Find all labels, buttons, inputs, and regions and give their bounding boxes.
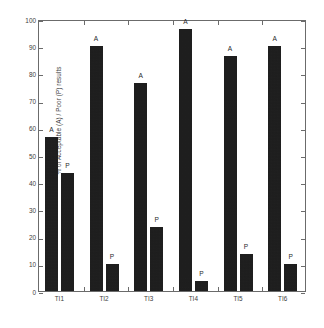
x-tick-mark <box>128 287 129 291</box>
y-tick-mark-right <box>301 184 305 185</box>
x-tick-label: TI5 <box>233 295 242 302</box>
x-tick-mark <box>173 287 174 291</box>
chart-figure: % of Acceptable (A) / Poor (P) results 0… <box>0 0 324 328</box>
bar-value-label: A <box>94 35 98 42</box>
x-tick-mark-top <box>262 21 263 25</box>
x-tick-label: TI3 <box>144 295 153 302</box>
x-tick-mark-top <box>173 21 174 25</box>
x-tick-mark-top <box>218 21 219 25</box>
y-tick-mark <box>39 103 43 104</box>
y-tick-label: 40 <box>29 180 36 187</box>
bar-value-label: A <box>272 35 276 42</box>
bar-value-label: P <box>199 270 203 277</box>
bar: P <box>240 254 253 291</box>
bar: A <box>90 46 103 291</box>
x-tick-mark <box>262 287 263 291</box>
y-tick-mark-right <box>301 157 305 158</box>
plot-area: % of Acceptable (A) / Poor (P) results 0… <box>38 20 306 292</box>
bar: P <box>61 173 74 291</box>
bar-value-label: A <box>138 72 142 79</box>
y-tick-label: 80 <box>29 71 36 78</box>
bar-value-label: A <box>228 45 232 52</box>
y-tick-mark <box>39 211 43 212</box>
bar-value-label: A <box>49 126 53 133</box>
bar-value-label: P <box>65 162 69 169</box>
x-tick-label: TI4 <box>189 295 198 302</box>
y-tick-mark-right <box>301 266 305 267</box>
y-tick-mark <box>39 184 43 185</box>
bar-value-label: P <box>244 243 248 250</box>
y-tick-mark-right <box>301 239 305 240</box>
y-tick-label: 0 <box>32 289 36 296</box>
bar: P <box>150 227 163 291</box>
y-tick-label: 20 <box>29 234 36 241</box>
bar: A <box>224 56 237 291</box>
bar: P <box>106 264 119 291</box>
x-tick-label: TI2 <box>99 295 108 302</box>
bar: P <box>195 281 208 291</box>
bar-value-label: P <box>110 253 114 260</box>
y-tick-label: 70 <box>29 98 36 105</box>
y-tick-mark-right <box>301 48 305 49</box>
bar-value-label: A <box>183 18 187 25</box>
x-tick-label: TI1 <box>55 295 64 302</box>
y-tick-mark <box>39 157 43 158</box>
bar: A <box>179 29 192 291</box>
y-tick-mark <box>39 239 43 240</box>
y-tick-mark-right <box>301 130 305 131</box>
bar-value-label: P <box>154 216 158 223</box>
x-tick-mark-top <box>84 21 85 25</box>
y-tick-label: 60 <box>29 125 36 132</box>
y-tick-label: 100 <box>25 17 36 24</box>
y-tick-mark-right <box>301 293 305 294</box>
y-tick-label: 30 <box>29 207 36 214</box>
bar: A <box>268 46 281 291</box>
y-tick-mark-right <box>301 21 305 22</box>
bar: A <box>45 137 58 291</box>
y-tick-label: 90 <box>29 44 36 51</box>
x-tick-label: TI6 <box>278 295 287 302</box>
y-tick-mark <box>39 293 43 294</box>
x-tick-mark <box>218 287 219 291</box>
y-tick-mark-right <box>301 75 305 76</box>
y-tick-label: 10 <box>29 261 36 268</box>
y-tick-mark-right <box>301 211 305 212</box>
y-tick-mark <box>39 130 43 131</box>
y-tick-mark-right <box>301 103 305 104</box>
y-tick-mark <box>39 266 43 267</box>
y-tick-mark <box>39 48 43 49</box>
x-tick-mark-top <box>128 21 129 25</box>
bar: P <box>284 264 297 291</box>
y-tick-mark <box>39 75 43 76</box>
bar: A <box>134 83 147 291</box>
y-tick-label: 50 <box>29 153 36 160</box>
bar-value-label: P <box>288 253 292 260</box>
y-tick-mark <box>39 21 43 22</box>
x-tick-mark <box>84 287 85 291</box>
